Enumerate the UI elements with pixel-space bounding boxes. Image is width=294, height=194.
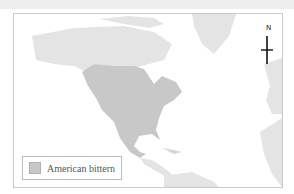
legend: American bittern (22, 156, 122, 180)
map-frame: N American bittern (13, 13, 283, 188)
north-label: N (266, 24, 271, 32)
legend-swatch (29, 162, 41, 174)
top-band (0, 0, 294, 9)
legend-label: American bittern (47, 163, 115, 174)
